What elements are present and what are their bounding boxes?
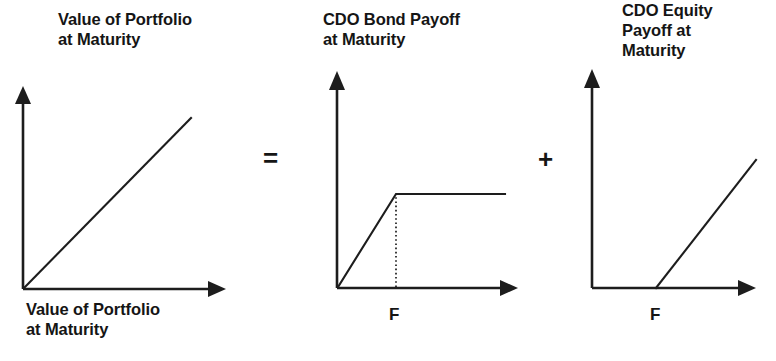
chart-xlabel-portfolio: Value of Portfolio at Maturity bbox=[26, 299, 160, 339]
equals-operator: = bbox=[263, 145, 278, 171]
x-axis-arrow-icon-portfolio bbox=[208, 281, 226, 297]
y-axis-arrow-icon-portfolio bbox=[15, 86, 31, 104]
chart-panel-portfolio: Value of Portfolio at Maturity Value of … bbox=[0, 0, 260, 361]
chart-title-equity: CDO Equity Payoff at Maturity bbox=[622, 0, 713, 60]
plus-operator: + bbox=[538, 146, 553, 172]
payoff-curve-equity bbox=[656, 160, 756, 288]
chart-title-bond: CDO Bond Payoff at Maturity bbox=[323, 9, 460, 49]
y-axis-arrow-icon-equity bbox=[584, 69, 600, 88]
y-axis-arrow-icon-bond bbox=[329, 71, 345, 90]
chart-title-portfolio: Value of Portfolio at Maturity bbox=[58, 9, 192, 49]
payoff-curve-bond bbox=[338, 194, 505, 287]
chart-panel-bond: = CDO Bond Payoff at Maturity F bbox=[260, 0, 520, 361]
x-axis-arrow-icon-equity bbox=[738, 280, 756, 296]
cdo-payoff-figure: Value of Portfolio at Maturity Value of … bbox=[0, 0, 776, 361]
x-tick-label-strike-bond: F bbox=[389, 306, 399, 323]
payoff-curve-portfolio bbox=[24, 118, 191, 288]
chart-panel-equity: + CDO Equity Payoff at Maturity F bbox=[516, 0, 776, 361]
x-tick-label-strike-equity: F bbox=[650, 306, 660, 323]
